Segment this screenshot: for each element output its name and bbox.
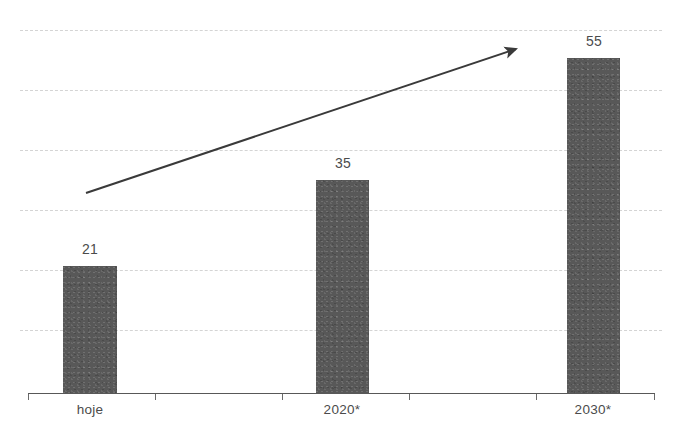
value-label-2020: 35 xyxy=(313,155,373,171)
x-axis-label-hoje: hoje xyxy=(50,402,130,417)
x-axis-label-2030: 2030* xyxy=(553,402,633,417)
x-axis-line xyxy=(28,393,655,394)
x-axis-tick-0 xyxy=(28,394,29,400)
x-axis-tick-5 xyxy=(654,394,655,400)
bar-2020 xyxy=(316,180,369,394)
value-label-2030: 55 xyxy=(564,33,624,49)
x-axis-tick-2 xyxy=(282,394,283,400)
value-label-hoje: 21 xyxy=(60,241,120,257)
bar-2030 xyxy=(567,58,620,394)
gridline-5 xyxy=(20,90,662,91)
gridline-6 xyxy=(20,30,662,31)
bar-chart: 21 35 55 hoje 2020* 2030* xyxy=(0,0,682,439)
x-axis-label-2020: 2020* xyxy=(302,402,382,417)
x-axis-tick-4 xyxy=(536,394,537,400)
x-axis-tick-1 xyxy=(155,394,156,400)
bar-hoje xyxy=(63,266,117,394)
gridline-4 xyxy=(20,150,662,151)
x-axis-tick-3 xyxy=(409,394,410,400)
